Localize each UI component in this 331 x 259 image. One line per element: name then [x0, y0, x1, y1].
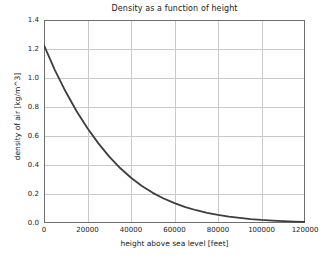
y-tick-label: 1.4	[9, 16, 39, 24]
y-axis-label: density of air [kg/m^3]	[13, 52, 22, 182]
density-height-chart-figure: Density as a function of height 0.00.20.…	[0, 0, 331, 259]
chart-title: Density as a function of height	[44, 4, 305, 13]
plot-area	[44, 20, 305, 223]
x-axis-label: height above sea level [feet]	[44, 239, 305, 248]
x-tick-label: 120000	[275, 226, 331, 234]
x-gridlines	[89, 20, 263, 223]
y-tick-label: 0.2	[9, 190, 39, 198]
density-curve	[44, 45, 305, 221]
plot-canvas	[44, 20, 305, 223]
